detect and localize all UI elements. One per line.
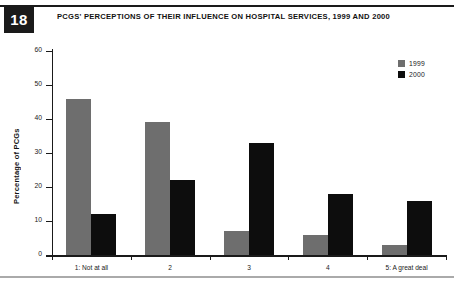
bar-2000-3 [249, 143, 274, 255]
bars-layer [52, 51, 446, 255]
x-axis-tick-mark [210, 255, 211, 260]
bar-1999-1 [66, 99, 91, 255]
bar-2000-2 [170, 180, 195, 255]
figure-container: 18 PCGS' PERCEPTIONS OF THEIR INFLUENCE … [0, 0, 454, 284]
legend-item-2000: 2000 [398, 69, 450, 80]
y-axis-tick-label: 50 [22, 80, 42, 87]
top-divider-rule [0, 5, 454, 7]
legend-label-1999: 1999 [409, 60, 425, 67]
x-axis-tick-mark [131, 255, 132, 260]
x-axis-tick-mark [52, 255, 53, 260]
chart-legend: 1999 2000 [398, 58, 450, 80]
bar-2000-1 [91, 214, 116, 255]
y-axis-tick-label: 20 [22, 182, 42, 189]
bar-2000-5 [407, 201, 432, 255]
bar-2000-4 [328, 194, 353, 255]
bottom-divider-rule [0, 276, 454, 278]
x-axis-tick-mark [288, 255, 289, 260]
bar-1999-5 [382, 245, 407, 255]
x-axis-tick-label: 5: A great deal [386, 264, 428, 271]
y-axis-tick-label: 30 [22, 148, 42, 155]
y-axis-tick-label: 0 [22, 250, 42, 257]
legend-label-2000: 2000 [409, 71, 425, 78]
y-axis-tick-label: 60 [22, 46, 42, 53]
bar-1999-2 [145, 122, 170, 255]
bar-1999-3 [224, 231, 249, 255]
y-axis-title: Percentage of PCGs [9, 106, 23, 226]
y-axis-tick-label: 40 [22, 114, 42, 121]
legend-swatch-icon-1999 [398, 60, 405, 67]
legend-item-1999: 1999 [398, 58, 450, 69]
x-axis-tick-label: 4 [326, 264, 330, 271]
figure-title: PCGS' PERCEPTIONS OF THEIR INFLUENCE ON … [57, 12, 447, 22]
figure-number-badge: 18 [4, 5, 34, 33]
plot-wrapper: Percentage of PCGs 0102030405060 1: Not … [0, 36, 454, 276]
bar-1999-4 [303, 235, 328, 255]
x-axis-tick-label: 3 [247, 264, 251, 271]
x-axis-tick-mark [367, 255, 368, 260]
x-axis-line [46, 255, 446, 257]
legend-swatch-icon-2000 [398, 71, 405, 78]
figure-number-text: 18 [10, 11, 28, 28]
x-axis-tick-label: 1: Not at all [75, 264, 108, 271]
x-axis-tick-label: 2 [168, 264, 172, 271]
x-axis-tick-mark [446, 255, 447, 260]
y-axis-tick-label: 10 [22, 216, 42, 223]
